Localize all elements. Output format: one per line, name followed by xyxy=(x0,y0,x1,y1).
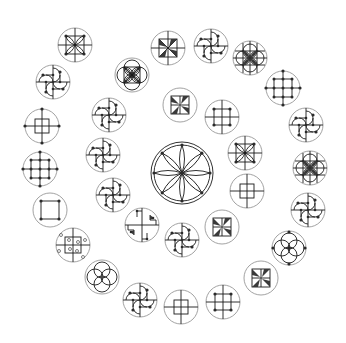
motif-arc-pinwheel xyxy=(92,98,126,132)
mandala-diagram xyxy=(0,0,346,343)
motif-flower-grid xyxy=(233,41,267,75)
motif-square-corner-dots xyxy=(33,193,67,227)
motif-flower-square-cross xyxy=(58,28,92,62)
motif-small-pinwheel-square xyxy=(244,261,278,295)
motif-dot-grid-3x3 xyxy=(264,69,301,106)
motif-arc-pinwheel xyxy=(123,283,157,317)
motif-dot-grid-3x3 xyxy=(21,150,58,187)
motif-square-open-circles xyxy=(56,228,90,262)
motif-arc-pinwheel xyxy=(291,193,325,227)
motif-frame-circle xyxy=(33,193,67,227)
motif-four-circle-dots xyxy=(271,230,306,265)
motif-square-cross xyxy=(164,290,198,324)
motif-frame-circle xyxy=(85,260,119,294)
motif-dot-square-cross xyxy=(206,285,240,319)
diagram-svg xyxy=(0,0,346,343)
motif-dot-square-cross xyxy=(205,100,239,134)
center-rosette xyxy=(151,142,213,204)
motif-four-circle xyxy=(85,260,119,294)
motif-step-pinwheel xyxy=(125,208,159,242)
motif-arc-pinwheel xyxy=(194,29,228,63)
motif-small-pinwheel-square xyxy=(163,88,197,122)
motif-arc-pinwheel xyxy=(96,178,130,212)
motif-four-circle-square xyxy=(115,58,149,92)
motif-arc-pinwheel xyxy=(86,138,120,172)
motif-square-cross-dots xyxy=(23,107,60,144)
motif-pinwheel-square-cross xyxy=(151,31,185,65)
motif-arc-pinwheel xyxy=(289,108,323,142)
motif-arc-pinwheel xyxy=(36,65,70,99)
motif-arc-pinwheel xyxy=(165,223,199,257)
motif-flower-grid xyxy=(293,151,327,185)
motif-square-cross xyxy=(230,174,264,208)
motif-flower-square-cross xyxy=(228,136,262,170)
motif-small-pinwheel-square xyxy=(205,210,239,244)
